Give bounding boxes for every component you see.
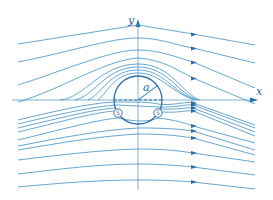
x-axis-arrow-icon [250, 98, 258, 103]
svg-text:S: S [116, 109, 120, 116]
flow-arrows-lower [191, 101, 197, 184]
separation-point-right: S [154, 109, 162, 117]
x-axis-label: x [256, 85, 263, 98]
flow-arrows-upper [191, 33, 197, 81]
y-axis-label: y [127, 14, 135, 27]
radius-label: a [143, 81, 150, 94]
svg-text:S: S [156, 109, 160, 116]
lower-streamlines [18, 102, 255, 189]
flow-diagram: y x [0, 0, 273, 200]
separation-point-left: S [114, 109, 122, 117]
y-axis-arrow-icon [136, 19, 141, 27]
upper-streamlines [18, 25, 255, 104]
